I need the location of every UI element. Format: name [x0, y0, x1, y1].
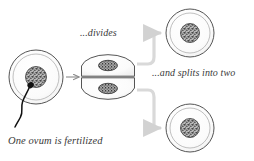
cell-daughter-bottom: [166, 104, 214, 152]
nucleus-daughter-bottom: [181, 119, 200, 138]
dividing-lobe-upper: [82, 55, 135, 77]
arrow-dividing-to-bottom: [137, 90, 161, 128]
dividing-lobe-lower: [82, 78, 135, 100]
cell-fertilized-ovum: [9, 50, 63, 127]
caption-divides: ...divides: [80, 28, 117, 38]
caption-splits-into-two: ...and splits into two: [152, 68, 235, 78]
caption-one-ovum-is-fertilized: One ovum is fertilized: [8, 136, 103, 147]
cell-dividing: [82, 55, 135, 100]
cell-daughter-top: [166, 9, 214, 57]
fertilization-diagram: ...divides ...and splits into two One ov…: [0, 0, 254, 161]
arrow-dividing-to-top: [137, 33, 161, 64]
nucleus-daughter-top: [181, 24, 200, 43]
